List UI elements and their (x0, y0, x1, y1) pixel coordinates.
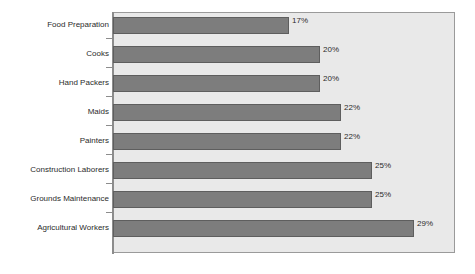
bar-value-label: 25% (375, 190, 391, 200)
bar-container (113, 162, 372, 179)
bar-value-label: 22% (344, 132, 360, 142)
bar (113, 191, 372, 208)
bar (113, 75, 320, 92)
category-label: Food Preparation (0, 20, 109, 30)
bar-container (113, 133, 341, 150)
bar-container (113, 17, 289, 34)
bar (113, 162, 372, 179)
bar-value-label: 17% (292, 16, 308, 26)
bar-row: Maids22% (0, 99, 475, 128)
bar-value-label: 22% (344, 103, 360, 113)
bar-row: Construction Laborers25% (0, 157, 475, 186)
bar-row: Cooks20% (0, 41, 475, 70)
bar (113, 17, 289, 34)
bar-container (113, 75, 320, 92)
category-label: Grounds Maintenance (0, 194, 109, 204)
bar-row: Food Preparation17% (0, 12, 475, 41)
bar (113, 220, 414, 237)
axis-tick-mark (106, 154, 112, 155)
bar-container (113, 220, 414, 237)
category-label: Maids (0, 107, 109, 117)
bar-value-label: 20% (323, 45, 339, 55)
axis-tick-mark (106, 38, 112, 39)
category-label: Hand Packers (0, 78, 109, 88)
bar-value-label: 29% (417, 219, 433, 229)
bar-rows: Food Preparation17%Cooks20%Hand Packers2… (0, 12, 475, 253)
category-label: Cooks (0, 49, 109, 59)
bar (113, 104, 341, 121)
axis-tick-mark (106, 183, 112, 184)
bar-value-label: 20% (323, 74, 339, 84)
axis-tick-mark (106, 96, 112, 97)
category-label: Construction Laborers (0, 165, 109, 175)
bar-row: Painters22% (0, 128, 475, 157)
bar-row: Hand Packers20% (0, 70, 475, 99)
bar-value-label: 25% (375, 161, 391, 171)
bar-container (113, 104, 341, 121)
bar-row: Grounds Maintenance25% (0, 186, 475, 215)
bar (113, 133, 341, 150)
bar (113, 46, 320, 63)
bar-chart: Food Preparation17%Cooks20%Hand Packers2… (0, 0, 475, 274)
axis-tick-mark (106, 67, 112, 68)
bar-container (113, 191, 372, 208)
bar-row: Agricultural Workers29% (0, 215, 475, 244)
category-label: Painters (0, 136, 109, 146)
axis-tick-mark (106, 212, 112, 213)
axis-tick-mark (106, 125, 112, 126)
bar-container (113, 46, 320, 63)
category-label: Agricultural Workers (0, 223, 109, 233)
